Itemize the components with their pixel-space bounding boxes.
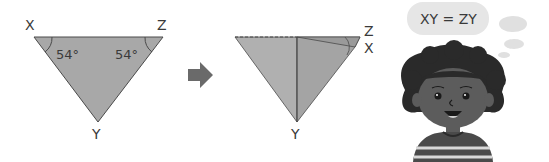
angle-label-z: 54° [115,47,138,62]
vertex-label-z: Z [157,17,167,33]
vertex-label-y: Y [91,126,101,142]
diagram-canvas: X Z Y 54° 54° Z X Y XY = ZY [0,0,549,162]
girl-character-icon [401,40,506,162]
vertex-label-x: X [25,17,35,33]
angle-label-x: 54° [56,47,79,62]
vertex-label-x2: X [364,40,374,56]
right-arrow-icon [188,62,213,88]
folded-triangle [235,37,360,122]
thought-bubble-text: XY = ZY [420,11,477,27]
vertex-label-z2: Z [364,23,374,39]
triangle-xyz [34,37,163,122]
vertex-label-y2: Y [290,126,300,142]
